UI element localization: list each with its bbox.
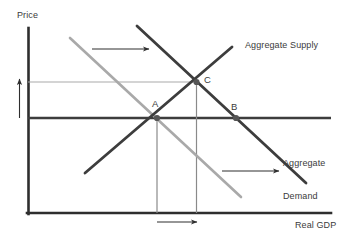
point-b-label: B xyxy=(231,101,237,112)
ad-as-diagram: Price Real GDP Aggregate Supply Aggregat… xyxy=(0,0,351,240)
point-c-label: C xyxy=(204,74,211,85)
output-drop-lines xyxy=(157,82,197,213)
point-a-label: A xyxy=(152,98,158,109)
aggregate-supply-curve xyxy=(85,47,232,173)
point-b-marker xyxy=(233,115,239,121)
aggregate-demand-label-line2: Demand xyxy=(283,191,325,202)
y-axis-label: Price xyxy=(17,10,38,21)
aggregate-supply-label: Aggregate Supply xyxy=(245,40,318,51)
point-a-marker xyxy=(154,115,160,121)
reference-lines xyxy=(28,82,331,118)
point-c-marker xyxy=(193,79,199,85)
aggregate-demand-label-line1: Aggregate xyxy=(283,158,325,169)
aggregate-demand-label: Aggregate Demand xyxy=(283,136,325,224)
